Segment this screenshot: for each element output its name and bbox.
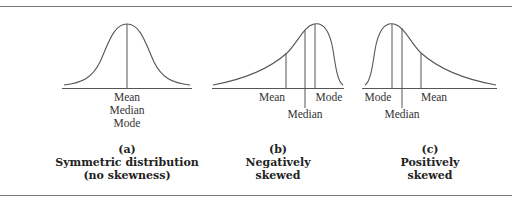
label-median-a: Median [109, 104, 144, 116]
caption-letter-b: (b) [269, 143, 287, 156]
panel-c-positive-skew: Mode Mean Median (c) Positively skewed [362, 24, 497, 182]
caption-title-b: Negatively [245, 156, 311, 169]
caption-letter-a: (a) [118, 143, 136, 156]
label-mode-c: Mode [365, 91, 392, 103]
curve-positive-skew [365, 24, 496, 85]
curve-negative-skew [213, 24, 343, 85]
panel-b-negative-skew: Mean Mode Median (b) Negatively skewed [212, 24, 344, 182]
caption-subtitle-b: skewed [256, 169, 301, 182]
label-mode-a: Mode [114, 117, 141, 129]
caption-title-a: Symmetric distribution [55, 156, 199, 169]
label-median-b: Median [287, 108, 322, 120]
label-mean-a: Mean [114, 91, 140, 103]
label-median-c: Median [384, 108, 419, 120]
caption-letter-c: (c) [421, 143, 438, 156]
panel-a-symmetric: Mean Median Mode (a) Symmetric distribut… [55, 24, 199, 182]
caption-subtitle-c: skewed [408, 169, 453, 182]
skewness-diagram: Mean Median Mode (a) Symmetric distribut… [0, 0, 525, 202]
label-mean-c: Mean [421, 91, 447, 103]
caption-title-c: Positively [401, 156, 461, 169]
caption-subtitle-a: (no skewness) [83, 169, 170, 182]
label-mean-b: Mean [259, 91, 285, 103]
label-mode-b: Mode [316, 91, 343, 103]
